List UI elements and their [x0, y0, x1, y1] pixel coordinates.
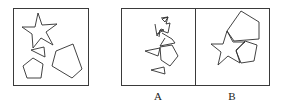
given-panel [14, 9, 89, 86]
bottom-triangle-shape [151, 67, 165, 74]
large-pentagon-shape [227, 11, 259, 41]
small-pentagon-shape [236, 41, 257, 63]
option-b-panel[interactable] [196, 9, 270, 86]
option-b-label: B [222, 90, 242, 102]
star-shape [22, 13, 57, 48]
option-b-frame [196, 9, 270, 86]
small-pentagon-shape [23, 58, 43, 78]
large-pentagon-shape [52, 44, 82, 78]
left-triangle-shape [145, 48, 160, 56]
option-a-panel[interactable] [122, 9, 196, 86]
pentagon-shape [160, 45, 178, 66]
option-a-frame [122, 9, 196, 86]
option-a-label: A [148, 90, 168, 102]
fragment-lines [160, 33, 175, 46]
given-panel-frame [14, 9, 89, 86]
